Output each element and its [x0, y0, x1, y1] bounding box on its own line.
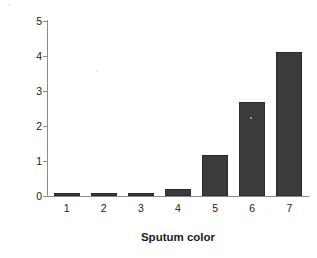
x-axis-title: Sputum color	[48, 231, 308, 243]
y-tick-mark-0	[43, 196, 48, 197]
x-tick-label-7: 7	[271, 202, 308, 214]
bar-chart-figure: NE activity 5 4 3 2 1 0 1234567 Sp	[0, 0, 317, 258]
bar-5[interactable]	[202, 155, 228, 196]
scan-speck	[8, 4, 10, 6]
x-tick-label-6: 6	[234, 202, 271, 214]
x-axis-line	[47, 196, 309, 197]
x-tick-label-2: 2	[85, 202, 122, 214]
y-tick-label-4: 4	[28, 51, 42, 61]
scan-speck	[250, 117, 252, 119]
x-tick-label-3: 3	[122, 202, 159, 214]
bar-3[interactable]	[128, 193, 154, 196]
bar-1[interactable]	[54, 193, 80, 196]
bar-2[interactable]	[91, 193, 117, 196]
x-tick-label-5: 5	[197, 202, 234, 214]
y-tick-label-0: 0	[28, 191, 42, 201]
scan-speck	[96, 70, 98, 72]
y-tick-label-2: 2	[28, 121, 42, 131]
bar-4[interactable]	[165, 189, 191, 196]
x-tick-label-4: 4	[160, 202, 197, 214]
x-tick-label-1: 1	[48, 202, 85, 214]
y-tick-label-1: 1	[28, 156, 42, 166]
bar-7[interactable]	[276, 52, 302, 196]
y-tick-label-3: 3	[28, 86, 42, 96]
bars-layer	[48, 21, 308, 196]
bar-6[interactable]	[239, 102, 265, 197]
y-tick-label-5: 5	[28, 16, 42, 26]
